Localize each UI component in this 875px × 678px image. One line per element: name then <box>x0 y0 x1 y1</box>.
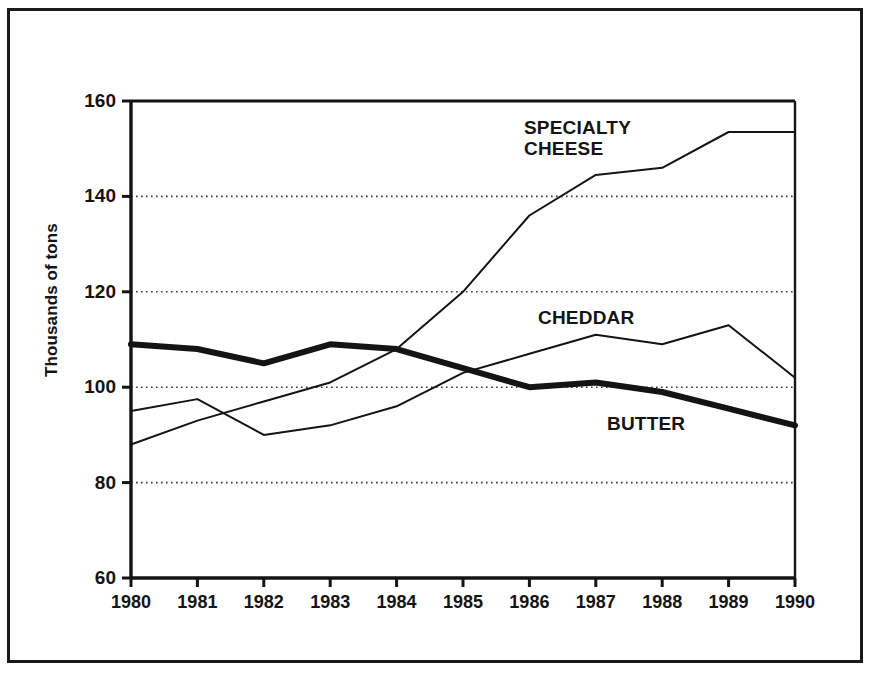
y-tick-label-140: 140 <box>70 186 116 205</box>
x-tick-label-1983: 1983 <box>295 593 365 611</box>
x-tick-label-1985: 1985 <box>428 593 498 611</box>
series-line-butter <box>131 344 795 425</box>
x-tick-label-1981: 1981 <box>162 593 232 611</box>
series-label-cheddar: CHEDDAR <box>538 307 634 328</box>
x-tick-label-1980: 1980 <box>96 593 166 611</box>
x-tick-label-1988: 1988 <box>627 593 697 611</box>
y-tick-label-100: 100 <box>70 377 116 396</box>
series-line-cheddar <box>131 325 795 435</box>
series-label-specialty-cheese: SPECIALTY CHEESE <box>524 117 631 160</box>
y-tick-label-60: 60 <box>70 568 116 587</box>
y-tick-label-160: 160 <box>70 91 116 110</box>
y-tick-label-80: 80 <box>70 473 116 492</box>
line-chart-svg <box>0 0 875 678</box>
chart-figure: Thousands of tons 1601401201008060198019… <box>0 0 875 678</box>
x-tick-label-1984: 1984 <box>362 593 432 611</box>
y-tick-label-120: 120 <box>70 282 116 301</box>
x-tick-label-1982: 1982 <box>229 593 299 611</box>
x-tick-label-1987: 1987 <box>561 593 631 611</box>
x-tick-label-1990: 1990 <box>760 593 830 611</box>
x-tick-label-1986: 1986 <box>494 593 564 611</box>
plot-area: 1601401201008060198019811982198319841985… <box>0 0 875 678</box>
x-tick-label-1989: 1989 <box>694 593 764 611</box>
series-label-butter: BUTTER <box>607 413 685 434</box>
